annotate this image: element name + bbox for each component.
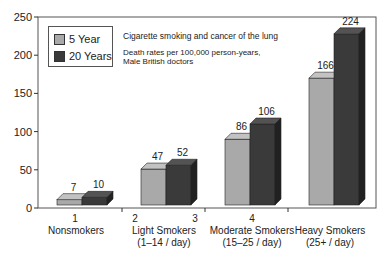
bar-side — [191, 159, 197, 205]
value-label: 10 — [93, 179, 105, 190]
bar-5-year — [225, 139, 250, 205]
value-label: 47 — [152, 151, 164, 162]
category-sublabel: (25+ / day) — [306, 237, 354, 248]
chart-subtitle-line2: Male British doctors — [123, 57, 193, 66]
legend: 5 Year 20 Years — [48, 26, 113, 67]
bar-20-years — [82, 197, 107, 205]
category-label: Nonsmokers — [48, 225, 104, 236]
legend-item-20-years: 20 Years — [54, 50, 112, 62]
value-label: 52 — [177, 147, 189, 158]
y-tick-label: 50 — [20, 164, 32, 176]
y-tick-label: 100 — [14, 126, 32, 138]
bar-5-year — [141, 169, 166, 205]
value-label: 106 — [258, 106, 275, 117]
chart-title: Cigarette smoking and cancer of the lung — [123, 32, 278, 41]
x-tick-number: 1 — [72, 213, 78, 224]
y-tick-label: 250 — [14, 11, 32, 23]
value-label: 166 — [317, 60, 334, 71]
legend-item-5-year: 5 Year — [54, 33, 100, 45]
legend-swatch-20-years — [54, 51, 65, 62]
legend-swatch-5-year — [54, 34, 65, 45]
category-sublabel: (1–14 / day) — [137, 237, 190, 248]
x-tick-number: 3 — [192, 213, 198, 224]
bar-20-years — [250, 124, 275, 205]
bar-5-year — [57, 200, 82, 205]
bar-5-year — [309, 78, 334, 205]
category-label: Moderate Smokers — [210, 225, 294, 236]
x-tick-number: 4 — [249, 213, 255, 224]
x-tick-number: 2 — [132, 213, 138, 224]
value-label: 224 — [342, 16, 359, 27]
bar-side — [359, 28, 365, 205]
category-label: Light Smokers — [132, 225, 196, 236]
category-sublabel: (15–25 / day) — [223, 237, 282, 248]
chart-subtitle-line1: Death rates per 100,000 person-years, — [123, 48, 260, 57]
bar-20-years — [334, 34, 359, 205]
bar-side — [275, 118, 281, 205]
y-tick-label: 0 — [26, 202, 32, 214]
y-tick-label: 200 — [14, 49, 32, 61]
value-label: 86 — [236, 121, 248, 132]
bar-20-years — [166, 165, 191, 205]
legend-label: 20 Years — [69, 50, 112, 62]
value-label: 7 — [71, 182, 77, 193]
category-label: Heavy Smokers — [295, 225, 366, 236]
legend-label: 5 Year — [69, 33, 100, 45]
y-tick-label: 150 — [14, 87, 32, 99]
